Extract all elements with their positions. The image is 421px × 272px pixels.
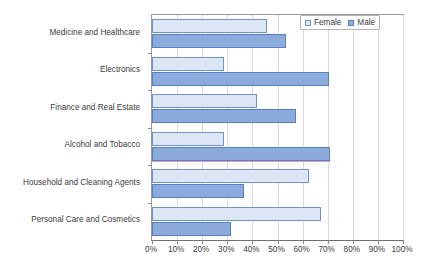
bar-chart: Medicine and HealthcareElectronicsFinanc…	[0, 0, 421, 272]
bars-layer	[152, 15, 403, 240]
category-label: Household and Cleaning Agents	[0, 178, 140, 188]
x-axis-tick	[378, 240, 379, 244]
x-axis-tick-label: 90%	[369, 245, 385, 254]
x-axis-tick-label: 40%	[243, 245, 259, 254]
category-label: Personal Care and Cosmetics	[0, 215, 140, 225]
category-axis: Medicine and HealthcareElectronicsFinanc…	[0, 14, 146, 239]
legend-item-male[interactable]: Male	[348, 18, 375, 27]
bar-female	[152, 132, 224, 146]
bar-male	[152, 34, 286, 48]
category-label: Finance and Real Estate	[0, 103, 140, 113]
bar-female	[152, 207, 321, 221]
category-label: Alcohol and Tobacco	[0, 140, 140, 150]
x-axis-tick-label: 60%	[293, 245, 309, 254]
x-axis-tick-label: 100%	[392, 245, 413, 254]
bar-female	[152, 19, 267, 33]
bar-male	[152, 72, 329, 86]
legend-label: Male	[357, 18, 375, 27]
legend[interactable]: FemaleMale	[300, 15, 380, 30]
male-swatch-icon	[348, 20, 354, 26]
bar-male	[152, 147, 330, 161]
legend-item-female[interactable]: Female	[305, 18, 341, 27]
x-axis-tick-label: 10%	[168, 245, 184, 254]
bar-female	[152, 57, 224, 71]
x-axis-labels: 0%10%20%30%40%50%60%70%80%90%100%	[151, 245, 402, 259]
x-axis-tick-label: 30%	[218, 245, 234, 254]
x-axis-tick	[303, 240, 304, 244]
bar-male	[152, 222, 231, 236]
x-axis-tick	[278, 240, 279, 244]
x-axis-tick	[328, 240, 329, 244]
y-axis-tick	[148, 128, 152, 129]
bar-female	[152, 94, 257, 108]
x-axis-tick-label: 70%	[318, 245, 334, 254]
y-axis-tick	[148, 90, 152, 91]
category-label: Medicine and Healthcare	[0, 28, 140, 38]
bar-female	[152, 169, 309, 183]
y-axis-tick	[148, 165, 152, 166]
x-axis-tick	[177, 240, 178, 244]
y-axis-tick	[148, 203, 152, 204]
x-axis-tick-label: 80%	[344, 245, 360, 254]
bar-male	[152, 184, 244, 198]
legend-label: Female	[314, 18, 341, 27]
y-axis-tick	[148, 53, 152, 54]
gridline	[403, 15, 404, 240]
category-label: Electronics	[0, 65, 140, 75]
x-axis-tick-label: 20%	[193, 245, 209, 254]
x-axis-tick	[353, 240, 354, 244]
x-axis-tick-label: 50%	[268, 245, 284, 254]
x-axis-tick	[403, 240, 404, 244]
female-swatch-icon	[305, 20, 311, 26]
x-axis-tick	[152, 240, 153, 244]
x-axis-tick	[202, 240, 203, 244]
bar-male	[152, 109, 296, 123]
x-axis-tick	[252, 240, 253, 244]
bar-accent-underline	[152, 161, 330, 162]
x-axis-tick	[227, 240, 228, 244]
plot-area	[151, 14, 404, 241]
x-axis-tick-label: 0%	[145, 245, 157, 254]
